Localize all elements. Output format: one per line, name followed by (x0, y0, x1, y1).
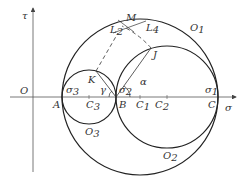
sigma-axis-label: σ (225, 102, 233, 113)
c2-label: C2 (155, 99, 169, 112)
alpha-label: α (140, 76, 147, 87)
mohr-circle-diagram: τ σ O A B C C3 C1 C2 σ3 σ2 σ1 γ α K J M … (0, 0, 243, 184)
point-k-label: K (87, 74, 96, 85)
point-b-label: B (118, 99, 126, 110)
line-k-l2-dashed (96, 33, 118, 71)
line-l2-label: L2 (109, 24, 123, 37)
point-m-label: M (125, 12, 137, 23)
circle-o1-label: O1 (190, 22, 205, 35)
sigma1-label: σ1 (205, 84, 218, 97)
tau-label: τ (22, 10, 28, 21)
point-a-label: A (52, 99, 60, 110)
c3-label: C3 (86, 99, 100, 112)
origin-label: O (20, 85, 28, 96)
point-c-label: C (208, 99, 216, 110)
circle-o3-label: O3 (85, 126, 100, 139)
c1-label: C1 (136, 99, 150, 112)
gamma-label: γ (100, 84, 106, 95)
point-j-label: J (151, 49, 158, 60)
circle-o2-label: O2 (163, 150, 178, 163)
sigma2-label: σ2 (119, 84, 132, 97)
sigma3-label: σ3 (66, 84, 79, 97)
angle-gamma-arc (109, 91, 112, 97)
line-l4-label: L4 (145, 22, 159, 35)
